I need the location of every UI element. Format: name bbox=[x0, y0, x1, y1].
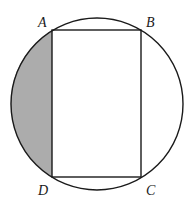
label-b: B bbox=[146, 15, 155, 30]
shaded-segment bbox=[11, 30, 52, 177]
label-a: A bbox=[37, 15, 47, 30]
rectangle-abcd bbox=[52, 30, 141, 177]
geometry-diagram: A B C D bbox=[0, 0, 194, 206]
label-c: C bbox=[146, 183, 156, 198]
label-d: D bbox=[37, 183, 48, 198]
